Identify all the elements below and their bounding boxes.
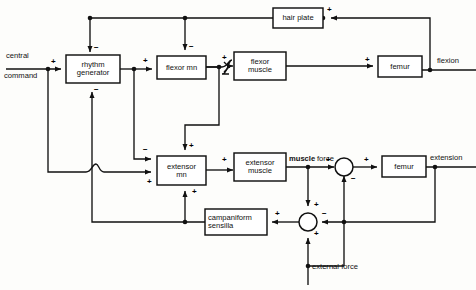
dot-hairplate-bus-fmn — [183, 16, 188, 21]
rect-femur-flexion — [378, 56, 422, 77]
dot-rhythm-generator-branch — [132, 67, 137, 72]
dot-flexion-branch — [428, 68, 433, 73]
rect-femur-extension — [382, 156, 426, 177]
sign-femur-to-hairplate: + — [327, 6, 332, 14]
rect-hair-plate — [273, 8, 323, 28]
diagram-wiring — [0, 0, 476, 290]
label-command: command — [4, 72, 37, 80]
wire-hairplate-to-rhythm-generator — [90, 18, 273, 52]
sign-force-sum-negative: − — [351, 175, 356, 183]
sign-force-sum-output: + — [364, 156, 369, 164]
sign-extensor-mn-to-extensor-muscle: + — [222, 156, 227, 164]
sign-load-sum-bottom: + — [314, 230, 319, 238]
dot-flexor-mn-branch — [217, 65, 222, 70]
rect-flexor-muscle — [234, 52, 286, 80]
block-rects — [66, 8, 426, 235]
dot-loadsum-to-forcesum — [342, 220, 347, 225]
sign-rhythm-generator-to-flexor-mn: + — [143, 57, 148, 65]
rect-rhythm-generator — [66, 55, 120, 83]
sign-load-sum-top: + — [314, 201, 319, 209]
sign-rhythm-generator-to-extensor-mn: − — [143, 146, 148, 154]
sign-hairplate-to-rhythm-generator: − — [94, 44, 99, 52]
sign-flexor-muscle-to-femur: + — [365, 56, 370, 64]
sign-flexor-mn-to-extensor-mn: + — [189, 142, 194, 150]
sign-hairplate-to-flexor-mn: − — [189, 43, 194, 51]
sign-central-command-to-extensor-mn: + — [147, 178, 152, 186]
sign-campaniform-to-rhythm-generator: − — [94, 86, 99, 94]
sign-load-sum-right: − — [322, 210, 327, 218]
sign-load-sum-output: + — [275, 210, 280, 218]
rect-extensor-muscle — [234, 153, 286, 181]
wire-central-command-to-extensor-mn — [48, 69, 151, 172]
rect-extensor-mn — [157, 156, 206, 185]
label-extension: extension — [430, 154, 463, 162]
sign-central-command-to-rhythm-generator: + — [51, 58, 56, 66]
label-central: central — [6, 52, 29, 60]
rect-flexor-mn — [157, 56, 206, 79]
sign-flexor-mn-to-flexor-muscle: + — [222, 54, 227, 62]
dot-hairplate-bus-rg — [88, 16, 93, 21]
dot-campaniform-branch — [183, 220, 188, 225]
sign-campaniform-to-extensor-mn: + — [192, 188, 197, 196]
dot-central-command-branch — [46, 67, 51, 72]
dot-external-force-branch — [306, 264, 311, 269]
sign-force-sum-input: + — [326, 156, 331, 164]
dot-muscle-force-branch — [306, 165, 311, 170]
label-flexion: flexion — [437, 57, 459, 65]
rect-campaniform-sensilla — [205, 209, 267, 235]
label-muscle-force-bold: muscle — [289, 155, 315, 163]
label-external-force: external force — [312, 263, 358, 271]
dot-extension-branch — [433, 165, 438, 170]
diagram-canvas: rhythm generator flexor mn flexor muscle… — [0, 0, 476, 290]
